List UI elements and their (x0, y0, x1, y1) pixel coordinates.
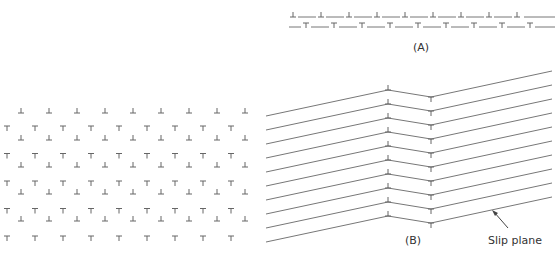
slip-line (266, 127, 552, 172)
edge-dislocation-up-icon (186, 162, 192, 167)
edge-dislocation-up-icon (130, 162, 136, 167)
edge-dislocation-up-icon (242, 135, 248, 140)
edge-dislocation-down-icon (428, 167, 434, 172)
edge-dislocation-up-icon (18, 216, 24, 221)
edge-dislocation-down-icon (172, 126, 178, 131)
edge-dislocation-up-icon (318, 12, 324, 17)
edge-dislocation-up-icon (186, 189, 192, 194)
edge-dislocation-up-icon (130, 216, 136, 221)
slip-line (266, 71, 552, 116)
edge-dislocation-up-icon (186, 135, 192, 140)
edge-dislocation-down-icon (428, 209, 434, 214)
edge-dislocation-down-icon (359, 23, 365, 28)
edge-dislocation-up-icon (158, 108, 164, 113)
edge-dislocation-down-icon (172, 181, 178, 186)
edge-dislocation-up-icon (214, 216, 220, 221)
edge-dislocation-down-icon (144, 209, 150, 214)
edge-dislocation-down-icon (527, 23, 533, 28)
edge-dislocation-down-icon (32, 181, 38, 186)
edge-dislocation-down-icon (88, 209, 94, 214)
edge-dislocation-down-icon (116, 209, 122, 214)
edge-dislocation-up-icon (402, 12, 408, 17)
edge-dislocation-up-icon (102, 216, 108, 221)
edge-dislocation-down-icon (200, 154, 206, 159)
edge-dislocation-up-icon (385, 197, 391, 202)
edge-dislocation-up-icon (74, 162, 80, 167)
edge-dislocation-down-icon (428, 153, 434, 158)
edge-dislocation-up-icon (458, 12, 464, 17)
edge-dislocation-up-icon (186, 108, 192, 113)
edge-dislocation-up-icon (385, 113, 391, 118)
edge-dislocation-up-icon (74, 216, 80, 221)
edge-dislocation-up-icon (214, 108, 220, 113)
edge-dislocation-down-icon (387, 23, 393, 28)
edge-dislocation-down-icon (144, 154, 150, 159)
slip-line (266, 183, 552, 228)
edge-dislocation-up-icon (130, 135, 136, 140)
edge-dislocation-up-icon (385, 169, 391, 174)
edge-dislocation-up-icon (186, 216, 192, 221)
edge-dislocation-down-icon (4, 154, 10, 159)
edge-dislocation-up-icon (430, 12, 436, 17)
slip-line (266, 85, 552, 130)
dislocation-diagram (0, 0, 557, 255)
edge-dislocation-down-icon (88, 154, 94, 159)
edge-dislocation-down-icon (60, 181, 66, 186)
edge-dislocation-down-icon (60, 209, 66, 214)
edge-dislocation-down-icon (88, 236, 94, 241)
edge-dislocation-up-icon (158, 162, 164, 167)
edge-dislocation-up-icon (385, 85, 391, 90)
edge-dislocation-down-icon (303, 23, 309, 28)
edge-dislocation-up-icon (385, 141, 391, 146)
edge-dislocation-up-icon (242, 162, 248, 167)
edge-dislocation-down-icon (428, 111, 434, 116)
edge-dislocation-down-icon (144, 126, 150, 131)
edge-dislocation-down-icon (331, 23, 337, 28)
edge-dislocation-up-icon (46, 135, 52, 140)
edge-dislocation-down-icon (499, 23, 505, 28)
slip-line (266, 155, 552, 200)
edge-dislocation-down-icon (428, 195, 434, 200)
slip-line (266, 99, 552, 144)
edge-dislocation-down-icon (228, 209, 234, 214)
edge-dislocation-down-icon (228, 236, 234, 241)
edge-dislocation-up-icon (102, 162, 108, 167)
edge-dislocation-up-icon (242, 216, 248, 221)
edge-dislocation-up-icon (290, 12, 296, 17)
edge-dislocation-up-icon (514, 12, 520, 17)
edge-dislocation-down-icon (4, 181, 10, 186)
edge-dislocation-down-icon (415, 23, 421, 28)
edge-dislocation-up-icon (18, 162, 24, 167)
edge-dislocation-down-icon (32, 154, 38, 159)
edge-dislocation-down-icon (116, 236, 122, 241)
edge-dislocation-down-icon (228, 154, 234, 159)
edge-dislocation-up-icon (486, 12, 492, 17)
edge-dislocation-down-icon (428, 97, 434, 102)
edge-dislocation-up-icon (130, 108, 136, 113)
edge-dislocation-down-icon (172, 236, 178, 241)
edge-dislocation-up-icon (46, 162, 52, 167)
edge-dislocation-up-icon (385, 127, 391, 132)
edge-dislocation-up-icon (242, 189, 248, 194)
edge-dislocation-down-icon (200, 236, 206, 241)
edge-dislocation-up-icon (158, 135, 164, 140)
edge-dislocation-down-icon (4, 209, 10, 214)
edge-dislocation-down-icon (60, 154, 66, 159)
edge-dislocation-down-icon (116, 181, 122, 186)
edge-dislocation-up-icon (214, 189, 220, 194)
edge-dislocation-down-icon (443, 23, 449, 28)
edge-dislocation-up-icon (385, 183, 391, 188)
edge-dislocation-up-icon (158, 189, 164, 194)
edge-dislocation-up-icon (214, 162, 220, 167)
edge-dislocation-up-icon (102, 189, 108, 194)
edge-dislocation-down-icon (428, 181, 434, 186)
edge-dislocation-down-icon (88, 181, 94, 186)
edge-dislocation-down-icon (32, 126, 38, 131)
slip-line (266, 169, 552, 214)
slip-line (266, 113, 552, 158)
edge-dislocation-down-icon (172, 209, 178, 214)
edge-dislocation-up-icon (102, 135, 108, 140)
edge-dislocation-up-icon (346, 12, 352, 17)
edge-dislocation-up-icon (385, 155, 391, 160)
edge-dislocation-down-icon (428, 223, 434, 228)
